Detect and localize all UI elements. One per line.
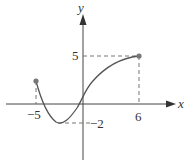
- function-curve: [36, 56, 139, 123]
- tick-label-neg5: −5: [27, 108, 41, 121]
- left-endpoint: [33, 78, 38, 83]
- y-axis-label: y: [78, 1, 84, 14]
- y-axis-arrow-icon: [80, 14, 87, 25]
- tick-label-neg2: −2: [90, 117, 104, 130]
- x-axis-label: x: [178, 97, 184, 110]
- right-endpoint: [136, 53, 141, 58]
- x-axis-arrow-icon: [166, 101, 176, 108]
- tick-label-5: 5: [72, 49, 79, 62]
- graph-canvas: [0, 0, 186, 162]
- tick-label-6: 6: [135, 110, 142, 123]
- function-graph: y x 5 −5 6 −2: [0, 0, 186, 162]
